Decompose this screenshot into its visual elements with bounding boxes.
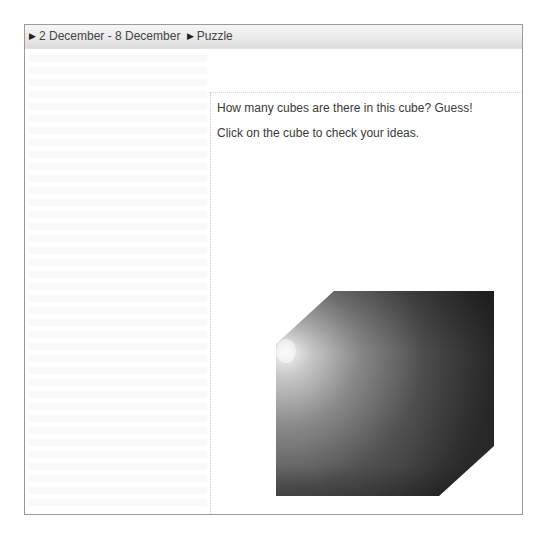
- cube-icon: [276, 291, 494, 496]
- breadcrumb: ▶2 December - 8 December ▶Puzzle: [25, 25, 522, 49]
- faded-background-area: [29, 55, 207, 508]
- page-frame: ▶2 December - 8 December ▶Puzzle How man…: [24, 24, 523, 515]
- play-arrow-icon: ▶: [29, 25, 36, 48]
- play-arrow-icon: ▶: [187, 25, 194, 48]
- cube-image-link[interactable]: [276, 291, 494, 496]
- breadcrumb-item-puzzle: Puzzle: [197, 29, 233, 43]
- puzzle-instruction: Click on the cube to check your ideas.: [217, 126, 419, 140]
- puzzle-question: How many cubes are there in this cube? G…: [217, 101, 472, 115]
- breadcrumb-item-week[interactable]: 2 December - 8 December: [39, 29, 180, 43]
